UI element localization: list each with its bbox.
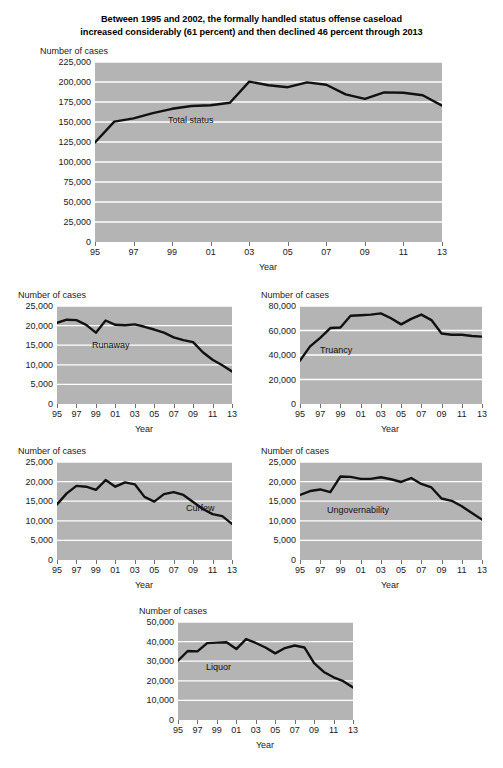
x-tick-label: 11 [329,725,338,735]
x-tick-label: 09 [309,725,319,735]
series-label-liquor: Liquor [206,662,231,672]
y-tick-label: 0 [122,715,174,725]
x-tick-label: 03 [251,725,261,735]
x-tick-label: 95 [173,725,183,735]
x-tick-label: 07 [290,725,300,735]
x-tick-mark [275,720,276,724]
x-tick-mark [256,720,257,724]
y-axis-caption-liquor: Number of cases [139,606,207,616]
x-tick-label: 97 [192,725,202,735]
y-tick-label: 30,000 [122,656,174,666]
x-tick-mark [295,720,296,724]
y-tick-label: 50,000 [122,617,174,627]
x-tick-label: 13 [348,725,358,735]
x-tick-mark [353,720,354,724]
x-tick-mark [314,720,315,724]
y-tick-label: 20,000 [122,676,174,686]
x-tick-mark [236,720,237,724]
x-tick-mark [217,720,218,724]
x-tick-mark [197,720,198,724]
y-tick-label: 40,000 [122,637,174,647]
x-tick-mark [178,720,179,724]
x-tick-label: 99 [212,725,222,735]
plot-area-liquor [178,622,353,720]
y-tick-label: 10,000 [122,695,174,705]
chart-panel-liquor: Number of cases010,00020,00030,00040,000… [0,0,503,768]
x-tick-label: 05 [270,725,280,735]
x-tick-mark [334,720,335,724]
x-axis-caption-liquor: Year [256,740,274,750]
x-tick-label: 01 [231,725,241,735]
